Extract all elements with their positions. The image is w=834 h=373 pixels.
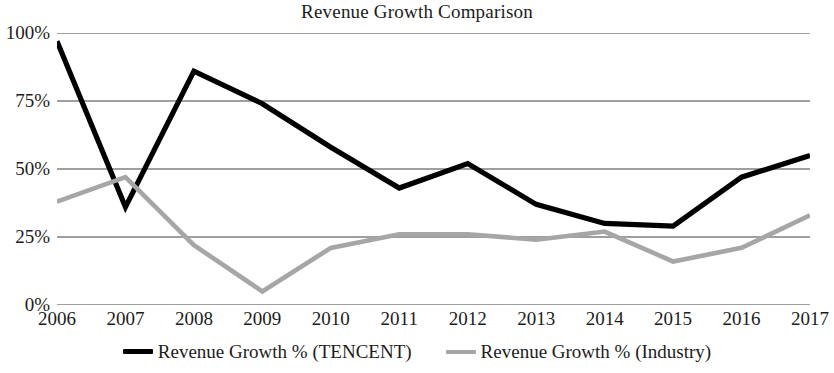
x-tick-label: 2010	[312, 308, 350, 330]
plot-area	[57, 33, 810, 305]
series-line-industry	[57, 177, 810, 291]
legend-label: Revenue Growth % (TENCENT)	[158, 341, 412, 362]
legend-entry[interactable]: Revenue Growth % (Industry)	[446, 341, 712, 362]
revenue-growth-chart: Revenue Growth Comparison 0%25%50%75%100…	[0, 0, 834, 373]
x-tick-label: 2015	[654, 308, 692, 330]
legend-label: Revenue Growth % (Industry)	[481, 341, 712, 362]
legend-entry[interactable]: Revenue Growth % (TENCENT)	[123, 341, 412, 362]
x-tick-label: 2008	[175, 308, 213, 330]
x-tick-label: 2014	[586, 308, 624, 330]
x-tick-label: 2017	[791, 308, 829, 330]
chart-title: Revenue Growth Comparison	[0, 1, 834, 23]
gridlines	[57, 33, 810, 305]
chart-legend: Revenue Growth % (TENCENT)Revenue Growth…	[0, 341, 834, 362]
series-line-tencent	[57, 41, 810, 226]
x-tick-label: 2016	[723, 308, 761, 330]
x-axis: 2006200720082009201020112012201320142015…	[57, 308, 810, 336]
x-tick-label: 2011	[381, 308, 418, 330]
y-tick-label: 75%	[15, 91, 50, 110]
x-tick-label: 2009	[243, 308, 281, 330]
legend-swatch-industry	[446, 350, 476, 354]
y-tick-label: 50%	[15, 159, 50, 178]
legend-swatch-tencent	[123, 349, 153, 354]
x-tick-label: 2006	[38, 308, 76, 330]
series-lines	[57, 41, 810, 291]
x-tick-label: 2007	[106, 308, 144, 330]
plot-svg	[57, 33, 810, 305]
x-tick-label: 2012	[449, 308, 487, 330]
y-tick-label: 25%	[15, 227, 50, 246]
x-tick-label: 2013	[517, 308, 555, 330]
y-tick-label: 100%	[6, 23, 50, 42]
